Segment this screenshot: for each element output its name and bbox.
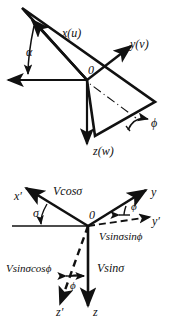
label-x-prime-axis: x′ bbox=[13, 189, 22, 203]
label-alpha-angle: α bbox=[26, 45, 33, 59]
label-z-axis: z bbox=[92, 305, 98, 319]
phi-upper-angle-arc bbox=[124, 206, 126, 215]
top-diagram-svg: x(u) y(v) z(w) 0 α ϕ bbox=[0, 0, 176, 170]
panel-velocity-components: x′ y y′ z z′ 0 σ ϕ ϕ Vcosσ Vsinσsinϕ Vsi… bbox=[0, 170, 176, 324]
figure-root: x(u) y(v) z(w) 0 α ϕ bbox=[0, 0, 176, 324]
label-phi-lower-angle: ϕ bbox=[70, 279, 76, 291]
label-origin: 0 bbox=[88, 63, 94, 77]
label-sigma-angle: σ bbox=[33, 206, 40, 220]
plane-edge-left bbox=[24, 10, 87, 80]
panel-body-axes-rotation: x(u) y(v) z(w) 0 α ϕ bbox=[0, 0, 176, 170]
z-prime-axis-arrow bbox=[60, 226, 88, 304]
phi-rotation-arc bbox=[128, 118, 148, 130]
label-v-sin-sigma-sin-phi: Vsinσsinϕ bbox=[99, 230, 143, 242]
label-y-axis: y(v) bbox=[129, 37, 149, 51]
label-z-prime-axis: z′ bbox=[55, 305, 64, 319]
label-phi-upper-angle: ϕ bbox=[131, 200, 137, 212]
label-y-axis: y bbox=[150, 185, 157, 199]
bottom-diagram-svg: x′ y y′ z z′ 0 σ ϕ ϕ Vcosσ Vsinσsinϕ Vsi… bbox=[0, 170, 176, 324]
label-z-axis: z(w) bbox=[92, 144, 114, 158]
label-v-cos-sigma: Vcosσ bbox=[53, 184, 83, 198]
label-phi-angle: ϕ bbox=[151, 116, 157, 130]
plane-centerline bbox=[90, 84, 136, 118]
label-origin: 0 bbox=[89, 208, 95, 222]
label-x-axis: x(u) bbox=[61, 26, 81, 40]
label-v-sin-sigma: Vsinσ bbox=[97, 261, 125, 275]
y-axis-arrow bbox=[88, 190, 146, 226]
label-y-prime-axis: y′ bbox=[151, 214, 160, 228]
sigma-angle-arc bbox=[41, 204, 47, 224]
label-v-sin-sigma-cos-phi: Vsinσcosϕ bbox=[6, 262, 52, 274]
